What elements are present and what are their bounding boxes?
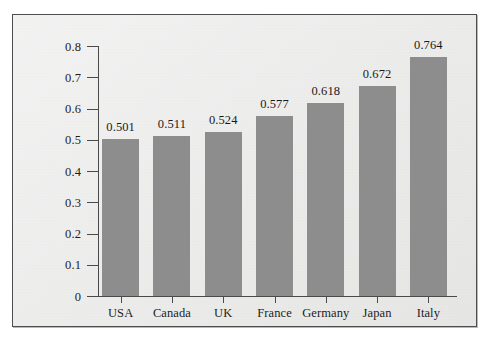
y-tick-0.3: 0.3: [87, 202, 99, 203]
x-tick-germany: [326, 296, 327, 303]
bar-germany: [307, 103, 344, 296]
bar-japan: [359, 86, 396, 296]
bar-value-label-canada: 0.511: [158, 117, 186, 132]
bar-value-label-france: 0.577: [260, 97, 289, 112]
y-tick-0.1: 0.1: [87, 265, 99, 266]
y-tick-0: 0: [87, 296, 99, 297]
x-tick-france: [275, 296, 276, 303]
y-tick-label: 0.4: [65, 164, 87, 179]
bar-france: [256, 116, 293, 296]
x-axis-label-germany: Germany: [302, 306, 349, 321]
bar-uk: [205, 132, 242, 296]
x-axis-label-japan: Japan: [363, 306, 392, 321]
y-tick-label: 0: [75, 289, 87, 304]
x-tick-japan: [377, 296, 378, 303]
y-tick-label: 0.2: [65, 227, 87, 242]
y-tick-label: 0.5: [65, 133, 87, 148]
y-tick-label: 0.6: [65, 102, 87, 117]
x-axis-label-italy: Italy: [417, 306, 440, 321]
bar-value-label-usa: 0.501: [106, 120, 135, 135]
x-tick-usa: [121, 296, 122, 303]
x-tick-italy: [428, 296, 429, 303]
y-tick-0.7: 0.7: [87, 77, 99, 78]
x-tick-uk: [223, 296, 224, 303]
x-axis-label-canada: Canada: [153, 306, 191, 321]
bar-value-label-italy: 0.764: [414, 38, 443, 53]
plot-area: 00.10.20.30.40.50.60.70.8 USACanadaUKFra…: [13, 15, 478, 328]
bar-italy: [410, 57, 447, 296]
bar-usa: [102, 139, 139, 296]
x-axis-line: [98, 296, 457, 297]
y-tick-0.6: 0.6: [87, 109, 99, 110]
y-tick-0.2: 0.2: [87, 234, 99, 235]
chart-frame: 00.10.20.30.40.50.60.70.8 USACanadaUKFra…: [12, 14, 477, 327]
x-axis-label-france: France: [257, 306, 292, 321]
bar-value-label-germany: 0.618: [311, 84, 340, 99]
x-tick-canada: [172, 296, 173, 303]
bar-value-label-uk: 0.524: [209, 113, 238, 128]
bar-canada: [153, 136, 190, 296]
y-tick-label: 0.1: [65, 258, 87, 273]
bar-value-label-japan: 0.672: [363, 67, 392, 82]
x-axis-label-usa: USA: [108, 306, 133, 321]
y-tick-label: 0.8: [65, 39, 87, 54]
y-tick-0.5: 0.5: [87, 140, 99, 141]
chart-figure: 00.10.20.30.40.50.60.70.8 USACanadaUKFra…: [0, 0, 492, 343]
y-tick-label: 0.3: [65, 195, 87, 210]
x-axis-label-uk: UK: [214, 306, 232, 321]
y-tick-label: 0.7: [65, 70, 87, 85]
y-tick-0.4: 0.4: [87, 171, 99, 172]
y-tick-0.8: 0.8: [87, 46, 99, 47]
